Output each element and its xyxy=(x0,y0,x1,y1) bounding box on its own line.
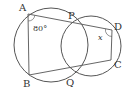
angle-label-x: x xyxy=(98,33,103,42)
label-a: A xyxy=(18,2,27,13)
label-b: B xyxy=(23,78,30,89)
right-circle xyxy=(61,16,121,76)
geometry-diagram: A P D C Q B 80° x xyxy=(0,0,130,92)
label-c: C xyxy=(114,59,122,70)
segment-bc xyxy=(29,60,111,75)
label-q: Q xyxy=(66,77,74,88)
angle-label-80: 80° xyxy=(33,24,47,33)
angle-arc-a xyxy=(28,15,35,21)
label-p: P xyxy=(68,10,75,21)
segment-dc xyxy=(111,30,112,60)
label-d: D xyxy=(114,21,122,32)
segment-ab xyxy=(28,14,29,75)
